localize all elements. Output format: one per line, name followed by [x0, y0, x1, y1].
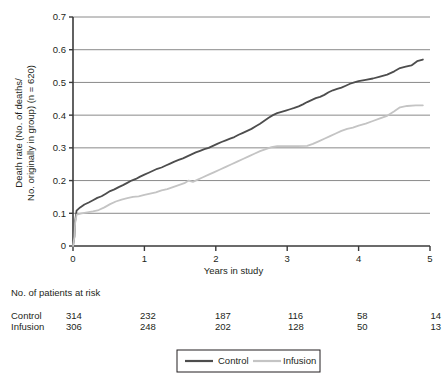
y-axis-tick-label: 0.4	[53, 110, 66, 121]
y-axis: 00.10.20.30.40.50.60.7	[53, 11, 73, 251]
risk-row-label: Infusion	[11, 321, 44, 332]
risk-cell: 128	[288, 321, 304, 332]
risk-cell: 13	[430, 321, 441, 332]
y-axis-tick-label: 0	[61, 240, 66, 251]
x-axis-title: Years in study	[204, 265, 264, 276]
series-line-control	[73, 60, 423, 246]
risk-cell: 202	[215, 321, 231, 332]
y-axis-tick-label: 0.3	[53, 142, 66, 153]
risk-cell: 314	[66, 310, 82, 321]
risk-cell: 14	[430, 310, 441, 321]
risk-cell: 58	[357, 310, 368, 321]
data-series	[73, 60, 423, 246]
series-line-infusion	[73, 105, 423, 246]
legend: ControlInfusion	[177, 350, 320, 372]
risk-cell: 187	[215, 310, 231, 321]
y-axis-tick-label: 0.1	[53, 208, 66, 219]
y-axis-tick-label: 0.5	[53, 77, 66, 88]
y-axis-tick-label: 0.7	[53, 11, 66, 22]
y-axis-title-line2: No. originally in group) (n = 620)	[25, 65, 36, 201]
axis-titles: Years in studyDeath rate (No. of deaths/…	[13, 65, 263, 276]
x-axis-tick-label: 5	[427, 253, 432, 264]
risk-cell: 248	[140, 321, 156, 332]
x-axis-tick-label: 2	[213, 253, 218, 264]
y-axis-title-line1: Death rate (No. of deaths/	[13, 78, 24, 188]
risk-table-header: No. of patients at risk	[11, 287, 100, 298]
risk-row-label: Control	[11, 310, 42, 321]
legend-label-infusion: Infusion	[283, 355, 316, 366]
survival-curve-figure: 00.10.20.30.40.50.60.7 012345 Years in s…	[0, 0, 446, 373]
x-axis-tick-label: 1	[142, 253, 147, 264]
risk-cell: 116	[288, 310, 303, 321]
x-axis-tick-label: 3	[285, 253, 290, 264]
risk-table: No. of patients at riskControl3142321871…	[11, 287, 441, 332]
y-axis-tick-label: 0.6	[53, 44, 66, 55]
risk-cell: 232	[140, 310, 156, 321]
x-axis-tick-label: 4	[356, 253, 361, 264]
x-axis: 012345	[70, 246, 432, 264]
legend-label-control: Control	[218, 355, 249, 366]
x-axis-tick-label: 0	[70, 253, 75, 264]
y-axis-tick-label: 0.2	[53, 175, 66, 186]
risk-cell: 306	[66, 321, 82, 332]
risk-cell: 50	[357, 321, 368, 332]
